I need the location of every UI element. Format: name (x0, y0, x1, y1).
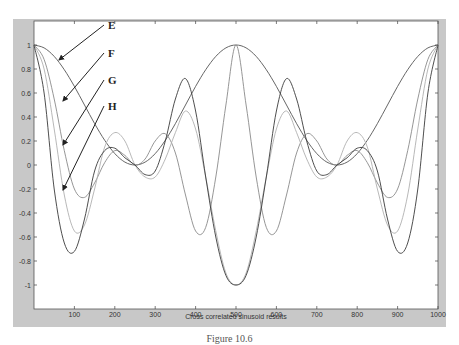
line-chart: 10.80.60.40.20-0.2-0.4-0.6-0.8-1 1002003… (0, 0, 459, 345)
y-tick-label: -0.8 (19, 258, 31, 265)
y-tick-label: 0.4 (21, 114, 31, 121)
y-tick-label: 0.2 (21, 138, 31, 145)
y-tick-label: 0.6 (21, 90, 31, 97)
x-tick-label: 300 (149, 311, 161, 318)
y-tick-label: -1 (25, 282, 31, 289)
y-tick-label: -0.4 (19, 210, 31, 217)
callout-label-g: G (108, 74, 117, 86)
x-tick-label: 1000 (430, 311, 446, 318)
x-tick-label: 800 (351, 311, 363, 318)
y-tick-label: 0.8 (21, 66, 31, 73)
x-tick-label: 700 (311, 311, 323, 318)
figure-caption: Figure 10.6 (0, 333, 459, 344)
y-tick-label: 1 (27, 42, 31, 49)
callout-label-f: F (108, 47, 115, 59)
x-axis-label: Cross correlated sinusoid results (185, 313, 287, 320)
callout-label-e: E (108, 19, 115, 31)
x-tick-label: 200 (109, 311, 121, 318)
x-tick-label: 900 (392, 311, 404, 318)
x-tick-label: 100 (69, 311, 81, 318)
y-tick-label: 0 (27, 162, 31, 169)
y-tick-label: -0.6 (19, 234, 31, 241)
callout-label-h: H (108, 100, 117, 112)
y-tick-label: -0.2 (19, 186, 31, 193)
